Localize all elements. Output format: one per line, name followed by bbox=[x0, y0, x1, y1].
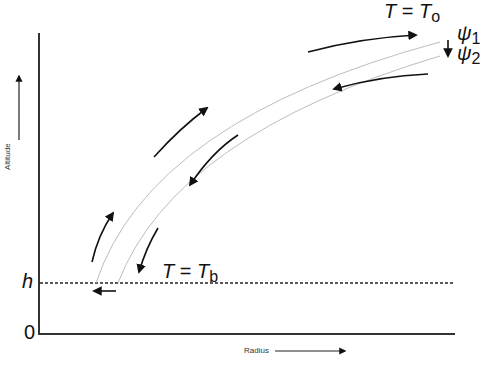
flow-arrow-left-icon bbox=[334, 74, 428, 89]
circulation-diagram bbox=[0, 0, 493, 367]
flow-arrow-up-icon bbox=[154, 108, 207, 157]
temperature-symbol: T bbox=[197, 260, 209, 282]
temperature-symbol: T bbox=[419, 0, 431, 22]
subscript: 2 bbox=[472, 50, 481, 67]
temperature-symbol: T bbox=[162, 260, 174, 282]
streamline-psi-2-label: ψ2 bbox=[457, 42, 480, 65]
streamline-psi-2 bbox=[118, 56, 440, 283]
temperature-symbol: T bbox=[384, 0, 396, 22]
top-temperature-label: T = To bbox=[384, 0, 440, 23]
equals-sign: = bbox=[174, 260, 197, 282]
y-axis-label: Altitude bbox=[3, 143, 12, 170]
y-tick-h: h bbox=[22, 270, 33, 293]
psi-symbol: ψ bbox=[457, 22, 472, 44]
flow-arrow-up-icon bbox=[92, 213, 113, 262]
equals-sign: = bbox=[396, 0, 419, 22]
subscript: o bbox=[431, 8, 440, 25]
flow-arrow-down-icon bbox=[139, 228, 158, 272]
subscript: b bbox=[209, 268, 218, 285]
psi-symbol: ψ bbox=[457, 42, 472, 64]
flow-arrow-down-icon bbox=[190, 135, 238, 185]
flow-arrow-right-icon bbox=[308, 35, 416, 52]
y-tick-0: 0 bbox=[24, 321, 35, 344]
bottom-temperature-label: T = Tb bbox=[162, 260, 218, 283]
x-axis-label: Radius bbox=[244, 346, 269, 355]
